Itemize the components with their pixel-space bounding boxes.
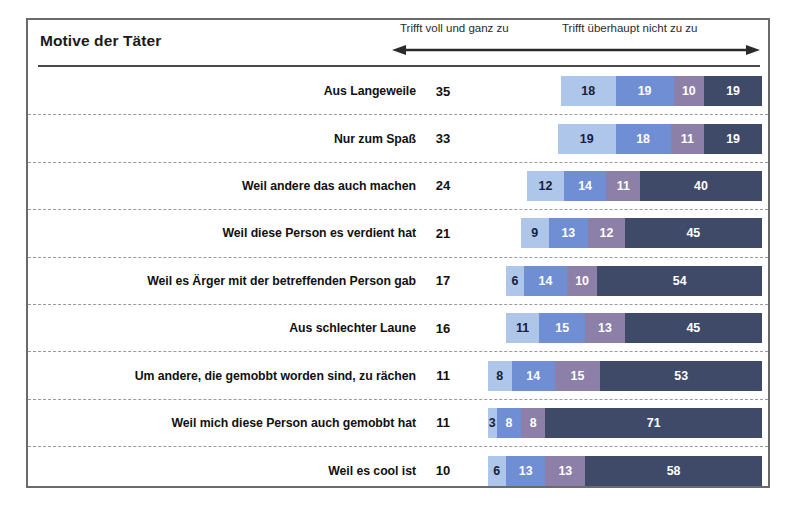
bar-segment[interactable]: 18 <box>561 76 616 106</box>
chart-row-inner: Weil andere das auch machen2412141140 <box>28 163 768 209</box>
bar-segment[interactable]: 45 <box>625 313 762 343</box>
row-label: Weil es cool ist <box>28 464 426 478</box>
bar-segment[interactable]: 45 <box>625 218 762 248</box>
chart-row-inner: Aus schlechter Laune1611151345 <box>28 305 768 351</box>
row-first-segment-value: 10 <box>426 463 460 478</box>
stacked-bar[interactable]: 6141054 <box>506 266 762 296</box>
chart-row: Um andere, die gemobbt worden sind, zu r… <box>28 352 768 399</box>
bar-segment[interactable]: 12 <box>527 171 564 201</box>
chart-rows: Aus Langeweile3518191019Nur zum Spaß3319… <box>28 68 768 495</box>
bar-segment[interactable]: 6 <box>488 456 506 486</box>
scale-label-right: Trifft überhaupt nicht zu zu <box>562 22 698 34</box>
stacked-bar[interactable]: 9131245 <box>521 218 762 248</box>
bar-segment[interactable]: 18 <box>616 124 671 154</box>
stacked-bar[interactable]: 11151345 <box>506 313 762 343</box>
row-label: Weil mich diese Person auch gemobbt hat <box>28 416 426 430</box>
bar-track: 18191019 <box>464 76 762 106</box>
bar-segment[interactable]: 14 <box>524 266 567 296</box>
chart-row: Weil es Ärger mit der betreffenden Perso… <box>28 258 768 305</box>
bar-track: 8141553 <box>464 361 762 391</box>
chart-row-inner: Weil es Ärger mit der betreffenden Perso… <box>28 258 768 304</box>
chart-row-inner: Weil es cool ist106131358 <box>28 447 768 494</box>
scale-legend: Trifft voll und ganz zu Trifft überhaupt… <box>392 22 760 66</box>
row-label: Aus schlechter Laune <box>28 321 426 335</box>
row-label: Um andere, die gemobbt worden sind, zu r… <box>28 369 426 383</box>
double-headed-arrow-icon <box>392 44 760 56</box>
row-label: Weil es Ärger mit der betreffenden Perso… <box>28 274 426 288</box>
chart-row-inner: Weil mich diese Person auch gemobbt hat1… <box>28 400 768 446</box>
bar-segment[interactable]: 6 <box>506 266 524 296</box>
bar-track: 19181119 <box>464 124 762 154</box>
bar-segment[interactable]: 19 <box>558 124 616 154</box>
chart-header: Motive der Täter Trifft voll und ganz zu… <box>28 20 768 66</box>
stacked-bar[interactable]: 12141140 <box>527 171 762 201</box>
row-first-segment-value: 16 <box>426 321 460 336</box>
bar-segment[interactable]: 13 <box>549 218 589 248</box>
bar-segment[interactable]: 40 <box>640 171 762 201</box>
bar-track: 9131245 <box>464 218 762 248</box>
bar-segment[interactable]: 13 <box>506 456 546 486</box>
chart-row-inner: Weil diese Person es verdient hat2191312… <box>28 210 768 256</box>
chart-row: Aus schlechter Laune1611151345 <box>28 305 768 352</box>
bar-segment[interactable]: 71 <box>545 408 762 438</box>
bar-segment[interactable]: 19 <box>704 124 762 154</box>
row-first-segment-value: 33 <box>426 131 460 146</box>
chart-row: Weil andere das auch machen2412141140 <box>28 163 768 210</box>
row-first-segment-value: 11 <box>426 415 460 430</box>
bar-track: 6141054 <box>464 266 762 296</box>
bar-track: 12141140 <box>464 171 762 201</box>
page-title: Motive der Täter <box>40 32 161 50</box>
stacked-bar[interactable]: 8141553 <box>488 361 762 391</box>
row-label: Weil diese Person es verdient hat <box>28 226 426 240</box>
bar-segment[interactable]: 3 <box>488 408 497 438</box>
bar-segment[interactable]: 8 <box>497 408 521 438</box>
chart-row: Weil diese Person es verdient hat2191312… <box>28 210 768 257</box>
chart-row-inner: Aus Langeweile3518191019 <box>28 68 768 114</box>
chart-row-inner: Um andere, die gemobbt worden sind, zu r… <box>28 352 768 398</box>
bar-segment[interactable]: 19 <box>704 76 762 106</box>
row-label: Weil andere das auch machen <box>28 179 426 193</box>
bar-segment[interactable]: 11 <box>506 313 540 343</box>
bar-segment[interactable]: 15 <box>555 361 601 391</box>
bar-track: 6131358 <box>464 456 762 486</box>
bar-segment[interactable]: 8 <box>521 408 545 438</box>
bar-segment[interactable]: 11 <box>671 124 705 154</box>
scale-label-left: Trifft voll und ganz zu <box>400 22 509 34</box>
stacked-bar[interactable]: 38871 <box>488 408 762 438</box>
chart-frame: Motive der Täter Trifft voll und ganz zu… <box>26 18 770 488</box>
bar-segment[interactable]: 12 <box>588 218 625 248</box>
chart-row: Weil mich diese Person auch gemobbt hat1… <box>28 400 768 447</box>
bar-segment[interactable]: 13 <box>545 456 585 486</box>
bar-segment[interactable]: 10 <box>674 76 705 106</box>
stacked-bar[interactable]: 19181119 <box>558 124 762 154</box>
title-divider <box>38 65 760 67</box>
bar-segment[interactable]: 15 <box>539 313 585 343</box>
row-label: Aus Langeweile <box>28 84 426 98</box>
row-first-segment-value: 24 <box>426 178 460 193</box>
row-first-segment-value: 35 <box>426 84 460 99</box>
bar-segment[interactable]: 9 <box>521 218 548 248</box>
stacked-bar[interactable]: 18191019 <box>561 76 762 106</box>
row-first-segment-value: 11 <box>426 368 460 383</box>
stacked-bar[interactable]: 6131358 <box>488 456 762 486</box>
bar-segment[interactable]: 14 <box>512 361 555 391</box>
row-first-segment-value: 21 <box>426 226 460 241</box>
bar-segment[interactable]: 8 <box>488 361 512 391</box>
row-label: Nur zum Spaß <box>28 132 426 146</box>
bar-segment[interactable]: 58 <box>585 456 762 486</box>
row-first-segment-value: 17 <box>426 273 460 288</box>
bar-track: 38871 <box>464 408 762 438</box>
chart-row-inner: Nur zum Spaß3319181119 <box>28 115 768 161</box>
bar-segment[interactable]: 11 <box>606 171 640 201</box>
chart-row: Weil es cool ist106131358 <box>28 447 768 494</box>
chart-row: Aus Langeweile3518191019 <box>28 68 768 115</box>
bar-segment[interactable]: 13 <box>585 313 625 343</box>
bar-track: 11151345 <box>464 313 762 343</box>
bar-segment[interactable]: 19 <box>616 76 674 106</box>
bar-segment[interactable]: 54 <box>597 266 762 296</box>
chart-row: Nur zum Spaß3319181119 <box>28 115 768 162</box>
bar-segment[interactable]: 14 <box>564 171 607 201</box>
bar-segment[interactable]: 10 <box>567 266 598 296</box>
bar-segment[interactable]: 53 <box>600 361 762 391</box>
